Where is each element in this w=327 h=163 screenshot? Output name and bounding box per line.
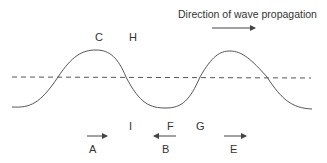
- label-c: C: [95, 31, 103, 43]
- wave-diagram: Direction of wave propagation C H I F G …: [0, 0, 327, 163]
- label-a: A: [89, 143, 97, 155]
- propagation-title: Direction of wave propagation: [178, 8, 317, 20]
- label-g: G: [196, 120, 205, 132]
- label-b: B: [162, 143, 169, 155]
- label-i: I: [129, 120, 132, 132]
- label-e: E: [230, 143, 237, 155]
- wave-curve: [12, 50, 312, 109]
- label-f: F: [167, 120, 174, 132]
- label-h: H: [129, 31, 137, 43]
